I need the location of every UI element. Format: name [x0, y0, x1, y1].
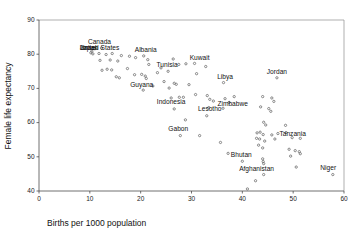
data-point	[259, 106, 261, 108]
data-point	[270, 110, 272, 112]
x-axis-title: Births per 1000 population	[47, 218, 147, 228]
data-point	[257, 144, 259, 146]
data-point	[98, 52, 100, 54]
data-point	[271, 134, 273, 136]
y-axis-title: Female life expectancy	[3, 62, 13, 150]
x-tick-label: 50	[290, 195, 298, 202]
data-point	[205, 65, 207, 67]
x-tick-label: 10	[86, 195, 94, 202]
x-tick-label: 20	[137, 195, 145, 202]
data-point	[265, 124, 267, 126]
data-point	[274, 138, 276, 140]
point-label: Zimbabwe	[217, 100, 248, 107]
data-point	[209, 98, 211, 100]
data-point	[198, 134, 200, 136]
data-point	[101, 69, 103, 71]
data-point	[284, 124, 286, 126]
data-point	[294, 149, 296, 151]
data-point	[188, 83, 190, 85]
data-point	[256, 132, 258, 134]
x-tick-label: 60	[340, 195, 348, 202]
data-point	[259, 131, 261, 133]
data-point	[179, 134, 181, 136]
data-point	[295, 166, 297, 168]
data-point	[276, 77, 278, 79]
point-label: Afghanistan	[239, 165, 274, 173]
data-point	[254, 180, 256, 182]
data-point	[206, 94, 208, 96]
data-point	[145, 77, 147, 79]
data-point	[233, 95, 235, 97]
point-label: Tunisia	[157, 61, 178, 68]
data-point	[262, 95, 264, 97]
data-point	[194, 93, 196, 95]
y-axis-ticks: 405060708090	[27, 16, 39, 194]
data-point	[133, 74, 135, 76]
data-point	[178, 63, 180, 65]
y-tick-label: 80	[27, 50, 35, 57]
data-point	[268, 107, 270, 109]
data-point	[263, 121, 265, 123]
data-point	[185, 63, 187, 65]
data-point	[142, 89, 144, 91]
data-point	[212, 100, 214, 102]
y-tick-label: 50	[27, 153, 35, 160]
point-label: Libya	[217, 73, 233, 81]
x-tick-label: 0	[37, 195, 41, 202]
data-point	[299, 153, 301, 155]
data-point	[299, 137, 301, 139]
data-point	[111, 52, 113, 54]
data-point	[148, 63, 150, 65]
point-label: Albania	[135, 46, 157, 53]
data-point	[105, 53, 107, 55]
data-point	[241, 160, 243, 162]
data-point	[246, 188, 248, 190]
data-point	[126, 67, 128, 69]
data-point	[106, 68, 108, 70]
point-label: Gabon	[168, 125, 188, 132]
data-point	[168, 87, 170, 89]
data-point	[92, 53, 94, 55]
data-point	[118, 77, 120, 79]
data-point	[262, 147, 264, 149]
data-point	[184, 119, 186, 121]
data-point	[271, 97, 273, 99]
point-label: Jordan	[267, 68, 287, 75]
data-point	[120, 54, 122, 56]
data-point	[156, 72, 158, 74]
data-point	[289, 155, 291, 157]
data-point	[273, 100, 275, 102]
data-point	[263, 173, 265, 175]
y-tick-label: 70	[27, 84, 35, 91]
data-point	[109, 59, 111, 61]
data-point	[193, 62, 195, 64]
data-point	[143, 55, 145, 57]
data-point	[134, 56, 136, 58]
point-label: Bhutan	[231, 151, 252, 158]
scatter-plot-figure: 405060708090 0102030405060 CanadaUnited …	[0, 0, 357, 236]
data-point	[175, 83, 177, 85]
data-point	[144, 75, 146, 77]
data-point	[222, 107, 224, 109]
data-point	[115, 76, 117, 78]
data-point	[163, 80, 165, 82]
point-label: Niger	[320, 164, 337, 172]
x-tick-label: 40	[239, 195, 247, 202]
data-point	[111, 69, 113, 71]
data-point	[141, 73, 143, 75]
point-label: Tanzania	[279, 130, 306, 137]
data-point	[219, 141, 221, 143]
data-point	[222, 81, 224, 83]
data-point	[262, 158, 264, 160]
data-point	[147, 59, 149, 61]
data-point	[117, 60, 119, 62]
y-tick-label: 40	[27, 187, 35, 194]
data-point	[264, 140, 266, 142]
data-point	[258, 138, 260, 140]
point-label: Guyana	[130, 81, 153, 89]
data-point	[195, 73, 197, 75]
plot-canvas: 405060708090 0102030405060 CanadaUnited …	[0, 0, 357, 236]
point-label: Israel	[80, 44, 97, 51]
data-point	[288, 148, 290, 150]
data-points-layer	[90, 47, 334, 190]
